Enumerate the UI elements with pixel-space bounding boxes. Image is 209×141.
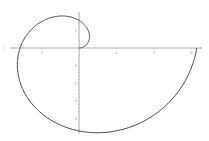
x-tick-label: 6 — [190, 50, 193, 55]
y-tick-label: 1 — [74, 28, 77, 33]
tick-labels: -22461-1-2-3-4 — [40, 28, 194, 121]
spiral-chart: -22461-1-2-3-4 — [0, 0, 209, 141]
y-tick-label: -1 — [73, 63, 77, 68]
x-tick-label: 4 — [153, 50, 156, 55]
spiral-curve — [17, 16, 196, 133]
x-tick-label: 2 — [115, 50, 118, 55]
axis-ticks — [4, 16, 201, 132]
x-tick-label: -2 — [40, 50, 44, 55]
y-tick-label: -4 — [73, 116, 77, 121]
y-tick-label: -3 — [73, 98, 77, 103]
y-tick-label: -2 — [73, 81, 77, 86]
